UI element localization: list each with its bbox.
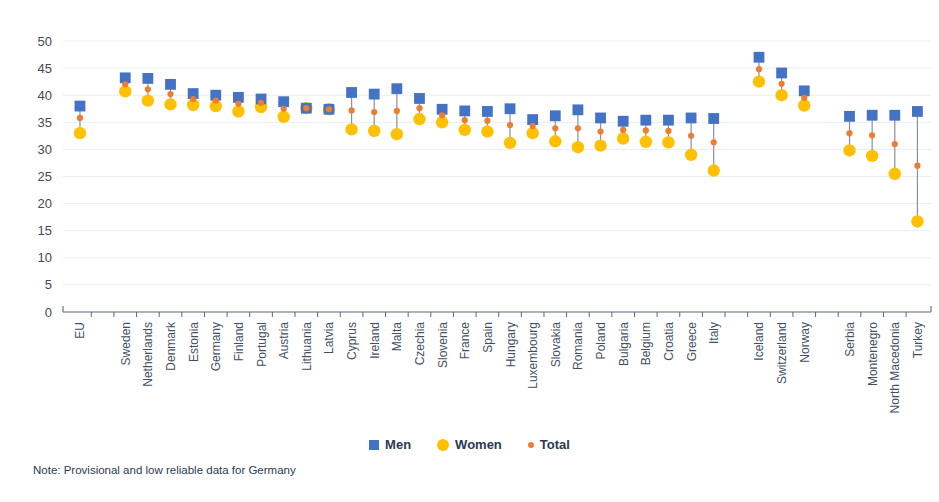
total-marker [326, 106, 332, 112]
women-marker [640, 136, 652, 148]
legend-item-men[interactable]: Men [369, 437, 411, 452]
y-tick-label: 15 [38, 223, 52, 238]
x-category-label: Malta [390, 322, 404, 352]
y-tick-label: 30 [38, 142, 52, 157]
women-marker [164, 98, 176, 110]
total-marker [394, 108, 400, 114]
women-marker [594, 139, 606, 151]
men-marker [369, 89, 380, 100]
men-marker [595, 113, 606, 124]
data-point-group [436, 104, 448, 129]
data-point-group [843, 111, 855, 157]
legend-item-total[interactable]: Total [528, 437, 570, 452]
women-marker [889, 168, 901, 180]
total-marker [348, 107, 354, 113]
data-point-group [685, 113, 697, 161]
data-point-group [368, 89, 380, 137]
x-category-label: Turkey [911, 322, 925, 358]
x-category-label: Czechia [413, 322, 427, 366]
x-category-label: Italy [707, 322, 721, 344]
men-marker [867, 110, 878, 121]
total-marker [597, 128, 603, 134]
x-category-label: France [458, 322, 472, 360]
legend-label-men: Men [385, 437, 411, 452]
women-marker [572, 141, 584, 153]
total-marker [620, 127, 626, 133]
axis-lines [63, 306, 931, 312]
women-marker [549, 135, 561, 147]
x-category-label: Lithuania [300, 322, 314, 371]
data-point-group [187, 88, 199, 111]
total-marker [892, 141, 898, 147]
women-marker [459, 124, 471, 136]
total-marker [167, 91, 173, 97]
women-marker [911, 215, 923, 227]
women-circle-icon [437, 439, 449, 451]
legend-label-total: Total [540, 437, 570, 452]
women-marker [345, 123, 357, 135]
x-category-label: Belgium [639, 322, 653, 365]
men-marker [776, 68, 787, 79]
scatter-plot: 05101520253035404550 EUSwedenNetherlands… [0, 0, 939, 502]
women-marker [142, 94, 154, 106]
women-marker [753, 75, 765, 87]
women-marker [708, 164, 720, 176]
x-category-label: Spain [481, 322, 495, 353]
data-point-group [549, 110, 561, 147]
total-marker [711, 139, 717, 145]
total-marker [462, 117, 468, 123]
data-point-group [232, 92, 244, 118]
total-marker [235, 101, 241, 107]
men-marker [346, 87, 357, 98]
chart-container: 05101520253035404550 EUSwedenNetherlands… [0, 0, 939, 502]
x-category-label: Finland [232, 322, 246, 361]
data-point-group [119, 72, 131, 97]
total-marker [258, 100, 264, 106]
y-axis-tick-labels: 05101520253035404550 [38, 34, 52, 320]
x-category-label: Croatia [662, 322, 676, 361]
data-point-group [210, 90, 222, 112]
data-point-group [866, 110, 878, 162]
x-category-label: Romania [571, 322, 585, 370]
men-marker [640, 115, 651, 126]
y-tick-label: 25 [38, 169, 52, 184]
x-category-label: Bulgaria [617, 322, 631, 366]
data-points [74, 52, 924, 228]
women-marker [843, 144, 855, 156]
men-marker [663, 115, 674, 126]
men-marker [165, 79, 176, 90]
x-category-label: Germany [209, 322, 223, 371]
data-point-group [74, 101, 86, 140]
gridlines [63, 41, 931, 285]
men-marker [391, 83, 402, 94]
y-tick-label: 0 [45, 305, 52, 320]
total-marker [846, 130, 852, 136]
women-marker [775, 89, 787, 101]
x-category-label: North Macedonia [888, 322, 902, 414]
legend-item-women[interactable]: Women [437, 437, 502, 452]
women-marker [866, 150, 878, 162]
total-marker [507, 122, 513, 128]
data-point-group [594, 113, 606, 152]
total-dot-icon [528, 442, 534, 448]
y-tick-label: 10 [38, 250, 52, 265]
x-category-label: Sweden [119, 322, 133, 365]
total-marker [552, 125, 558, 131]
men-marker [505, 103, 516, 114]
total-marker [416, 105, 422, 111]
men-marker [754, 52, 765, 63]
data-point-group [504, 103, 516, 149]
x-category-label: Iceland [752, 322, 766, 361]
women-marker [74, 127, 86, 139]
data-point-group [617, 116, 629, 145]
data-point-group [889, 110, 901, 180]
x-category-label: Denmark [164, 321, 178, 371]
men-marker [414, 93, 425, 104]
total-marker [281, 106, 287, 112]
data-point-group [640, 115, 652, 148]
total-marker [665, 128, 671, 134]
y-tick-label: 40 [38, 88, 52, 103]
x-category-label: Switzerland [775, 322, 789, 384]
men-marker [482, 106, 493, 117]
x-category-label: Hungary [504, 322, 518, 367]
